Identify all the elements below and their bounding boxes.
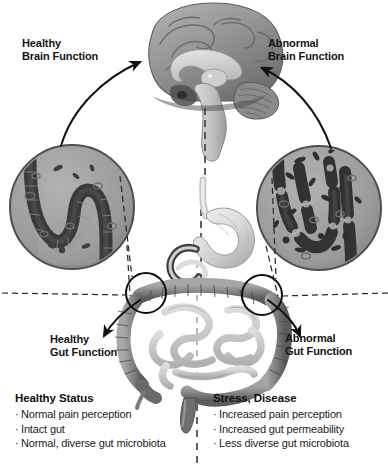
list-item: ·Normal pain perception [15,407,205,422]
healthy-status-title: Healthy Status [15,392,205,404]
list-item: ·Normal, diverse gut microbiota [15,436,205,451]
label-abnormal-gut-line1: Abnormal [285,332,336,344]
abnormal-gut-inset [257,145,381,270]
label-abnormal-gut-line2: Gut Function [285,345,352,357]
healthy-bullet-2: Intact gut [21,423,65,435]
list-item: ·Increased pain perception [213,407,388,422]
healthy-status-block: Healthy Status ·Normal pain perception ·… [15,392,205,451]
healthy-bullet-3: Normal, diverse gut microbiota [21,437,166,449]
stress-bullet-1: Increased pain perception [219,408,342,420]
brain-illustration [149,3,283,161]
label-abnormal-brain-line1: Abnormal [268,37,319,49]
stress-bullet-3: Less diverse gut microbiota [219,437,349,449]
list-item: ·Less diverse gut microbiota [213,436,388,451]
diagram-canvas: HealthyBrain Function AbnormalBrain Func… [0,0,388,475]
label-abnormal-gut-function: AbnormalGut Function [285,332,352,357]
label-abnormal-brain-line2: Brain Function [268,50,344,62]
label-healthy-gut-function: HealthyGut Function [50,333,117,358]
label-healthy-brain-line1: Healthy [22,37,61,49]
healthy-status-list: ·Normal pain perception ·Intact gut ·Nor… [15,407,205,451]
arrow-healthy-gut-to-brain [61,62,140,146]
label-healthy-gut-line1: Healthy [50,333,89,345]
stress-bullet-2: Increased gut permeability [219,423,344,435]
list-item: ·Increased gut permeability [213,422,388,437]
stress-disease-status-block: Stress, Disease ·Increased pain percepti… [213,392,388,451]
label-healthy-brain-function: HealthyBrain Function [22,37,98,62]
label-abnormal-brain-function: AbnormalBrain Function [268,37,344,62]
list-item: ·Intact gut [15,422,205,437]
healthy-gut-inset [10,145,134,269]
healthy-bullet-1: Normal pain perception [21,408,131,420]
stress-status-title: Stress, Disease [213,392,388,404]
label-healthy-gut-line2: Gut Function [50,346,117,358]
stress-status-list: ·Increased pain perception ·Increased gu… [213,407,388,451]
label-healthy-brain-line2: Brain Function [22,50,98,62]
